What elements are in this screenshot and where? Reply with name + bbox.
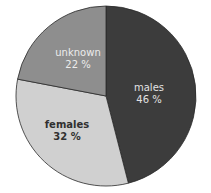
- label-females-value: 32 %: [45, 131, 89, 143]
- pie-chart: [0, 0, 211, 193]
- label-unknown: unknown 22 %: [55, 47, 100, 71]
- label-females-name: females: [45, 119, 89, 131]
- label-males-name: males: [134, 82, 164, 94]
- label-unknown-name: unknown: [55, 47, 100, 59]
- label-unknown-value: 22 %: [55, 59, 100, 71]
- label-males: males 46 %: [134, 82, 164, 106]
- pie-slices: [16, 6, 196, 186]
- label-females: females 32 %: [45, 119, 89, 143]
- label-males-value: 46 %: [134, 94, 164, 106]
